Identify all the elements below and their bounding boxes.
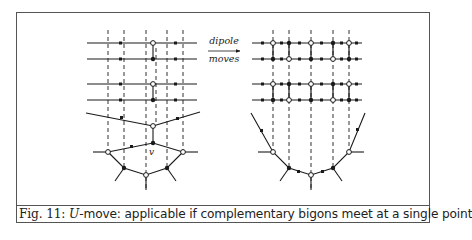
- left-row-markers: [119, 42, 177, 103]
- left-horizontal-rows: [87, 43, 197, 100]
- left-dashed-verticals: [108, 30, 183, 190]
- right-row-markers: [261, 41, 358, 102]
- arrow-label-dipole: dipole: [204, 35, 244, 46]
- right-horizontal-rows: [252, 43, 362, 100]
- right-solid-connectors: [273, 43, 349, 100]
- right-diagram: [251, 30, 365, 190]
- vertex-label-v: v: [149, 147, 154, 157]
- arrow-label-moves: moves: [204, 53, 244, 64]
- left-diagram: [86, 30, 200, 190]
- left-lower-filled-vertices: [120, 116, 179, 170]
